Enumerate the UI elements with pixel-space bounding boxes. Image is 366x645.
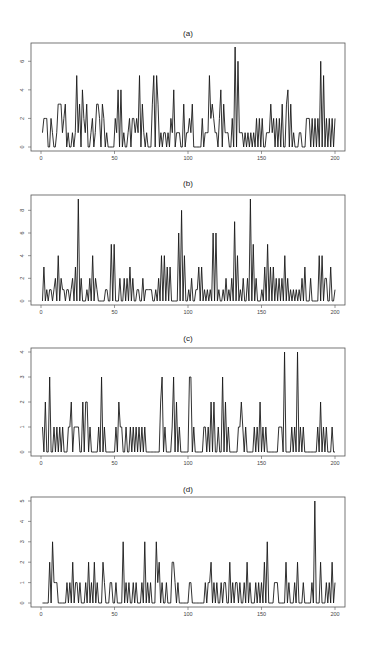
- y-tick-label: 4: [19, 254, 25, 257]
- panel-title-b: (b): [183, 179, 193, 188]
- y-tick-label: 0: [19, 601, 25, 604]
- y-tick-label: 1: [19, 425, 25, 428]
- y-tick-label: 4: [19, 350, 25, 353]
- panel-a: (a) 0501001502000246: [19, 29, 345, 161]
- y-tick-label: 6: [19, 60, 25, 63]
- x-tick-label: 150: [257, 460, 266, 466]
- series-line: [42, 352, 335, 452]
- x-tick-label: 200: [330, 309, 339, 315]
- panel-b: (b) 05010015020002468: [19, 179, 345, 315]
- x-tick-label: 0: [39, 611, 42, 617]
- y-tick-label: 3: [19, 540, 25, 543]
- x-tick-label: 100: [183, 460, 192, 466]
- panel-c: (c) 05010015020001234: [19, 334, 345, 466]
- panel-title-a: (a): [183, 29, 193, 38]
- panel-title-d: (d): [183, 485, 193, 494]
- x-tick-label: 150: [257, 309, 266, 315]
- x-tick-label: 0: [39, 309, 42, 315]
- y-tick-label: 6: [19, 231, 25, 234]
- x-tick-label: 50: [111, 155, 117, 161]
- y-tick-label: 1: [19, 581, 25, 584]
- y-tick-label: 0: [19, 299, 25, 302]
- y-tick-label: 0: [19, 450, 25, 453]
- y-tick-label: 0: [19, 145, 25, 148]
- x-tick-label: 100: [183, 155, 192, 161]
- x-tick-label: 200: [330, 460, 339, 466]
- x-tick-label: 50: [111, 611, 117, 617]
- series-line: [42, 501, 335, 603]
- x-tick-label: 0: [39, 460, 42, 466]
- y-tick-label: 2: [19, 561, 25, 564]
- y-tick-label: 3: [19, 375, 25, 378]
- plot-frame: [31, 43, 345, 151]
- panel-title-c: (c): [183, 334, 193, 343]
- y-tick-label: 5: [19, 499, 25, 502]
- panel-d: (d) 050100150200012345: [19, 485, 345, 617]
- series-line: [42, 199, 335, 301]
- x-tick-label: 150: [257, 155, 266, 161]
- y-tick-label: 2: [19, 277, 25, 280]
- y-tick-label: 8: [19, 209, 25, 212]
- x-tick-label: 200: [330, 611, 339, 617]
- figure: (a) 0501001502000246 (b) 050100150200024…: [0, 0, 366, 645]
- x-tick-label: 50: [111, 309, 117, 315]
- x-tick-label: 150: [257, 611, 266, 617]
- x-tick-label: 0: [39, 155, 42, 161]
- plot-frame: [31, 497, 345, 607]
- x-tick-label: 50: [111, 460, 117, 466]
- x-tick-label: 100: [183, 611, 192, 617]
- y-tick-label: 4: [19, 520, 25, 523]
- x-tick-label: 100: [183, 309, 192, 315]
- x-tick-label: 200: [330, 155, 339, 161]
- y-tick-label: 2: [19, 117, 25, 120]
- series-line: [42, 47, 335, 147]
- y-tick-label: 2: [19, 400, 25, 403]
- y-tick-label: 4: [19, 88, 25, 91]
